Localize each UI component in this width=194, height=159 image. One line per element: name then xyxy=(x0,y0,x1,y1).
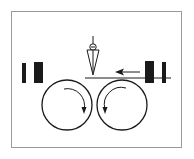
clockwise-arrow-icon xyxy=(64,89,85,110)
right-roller xyxy=(97,80,147,130)
roller-diagram xyxy=(0,0,194,159)
right-guide-thick xyxy=(145,61,154,83)
left-guide-thin xyxy=(22,63,26,83)
left-roller xyxy=(42,80,92,130)
counterclockwise-arrow-icon xyxy=(104,87,126,109)
right-guide-thin xyxy=(162,62,166,83)
feed-direction-arrow-icon xyxy=(115,69,140,76)
cutter-blade-icon xyxy=(87,36,99,75)
left-guide-thick xyxy=(34,62,43,83)
